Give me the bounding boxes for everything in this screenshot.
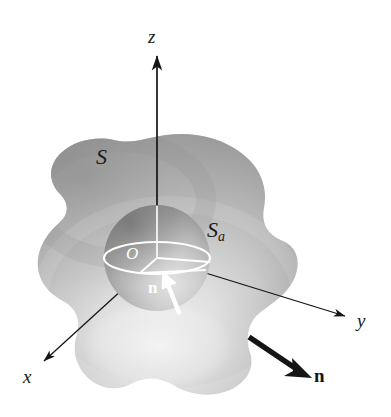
y-axis-label: y [357, 311, 365, 330]
z-axis-label: z [148, 27, 155, 46]
x-axis-label: x [23, 367, 31, 386]
inner-normal-label: n [148, 279, 157, 296]
origin-label: O [126, 245, 138, 262]
inner-sphere-label-subscript: a [218, 229, 225, 244]
inner-sphere-label-base: S [207, 217, 218, 242]
figure-canvas [0, 0, 391, 417]
vector-calculus-figure: z y x S Sa O n n [0, 0, 391, 417]
inner-sphere-label: Sa [207, 219, 225, 244]
outer-normal-label: n [314, 366, 325, 385]
outer-normal-arrow [249, 337, 312, 378]
outer-surface-label: S [96, 146, 107, 168]
